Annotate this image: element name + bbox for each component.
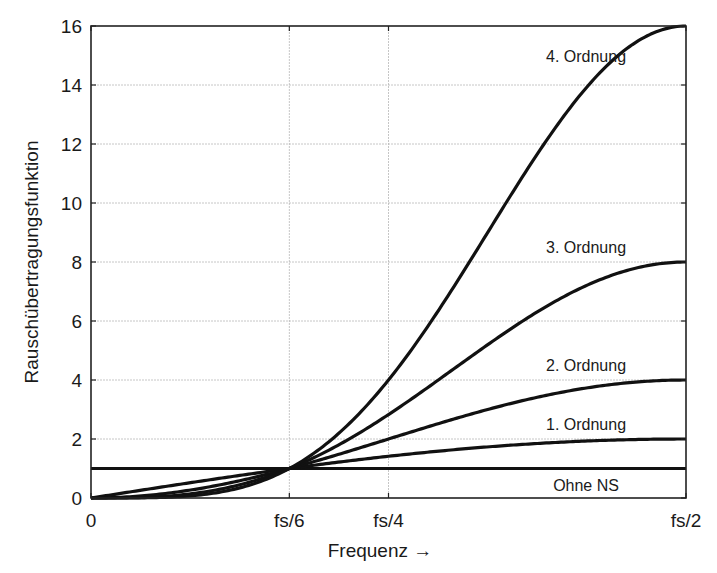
curve-label: 4. Ordnung: [546, 48, 626, 65]
noise-transfer-chart: 02468101214160fs/6fs/4fs/2 4. Ordnung3. …: [0, 0, 717, 573]
y-tick-label: 8: [71, 252, 82, 273]
curve-label: 1. Ordnung: [546, 416, 626, 433]
curve-label: 3. Ordnung: [546, 239, 626, 256]
y-tick-label: 12: [61, 134, 82, 155]
curve-label: 2. Ordnung: [546, 357, 626, 374]
y-tick-label: 16: [61, 16, 82, 37]
x-tick-label: fs/2: [671, 510, 702, 531]
x-tick-label: fs/4: [373, 510, 404, 531]
y-tick-label: 14: [61, 75, 83, 96]
x-axis-label: Frequenz →: [328, 540, 433, 561]
y-axis-label: Rauschübertragungsfunktion: [21, 141, 42, 384]
y-tick-label: 6: [71, 311, 82, 332]
y-tick-label: 0: [71, 488, 82, 509]
y-tick-label: 10: [61, 193, 82, 214]
x-tick-label: fs/6: [274, 510, 305, 531]
y-tick-label: 4: [71, 370, 82, 391]
y-tick-label: 2: [71, 429, 82, 450]
x-tick-label: 0: [86, 510, 97, 531]
curve-label: Ohne NS: [553, 477, 619, 494]
